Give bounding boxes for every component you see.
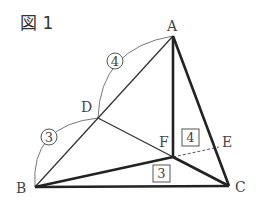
ratio-DB: 3 [45, 130, 53, 145]
segment-BF [35, 157, 173, 187]
point-label-D: D [81, 99, 92, 115]
area-3: 3 [157, 166, 165, 181]
point-label-F: F [159, 134, 169, 150]
segment-BC [35, 186, 229, 187]
segment-AB [35, 36, 173, 187]
area-4: 4 [186, 130, 194, 145]
point-label-A: A [166, 18, 178, 34]
point-label-E: E [222, 134, 232, 150]
point-label-C: C [235, 179, 246, 195]
point-label-B: B [16, 180, 26, 196]
ratio-AD: 4 [111, 54, 119, 69]
geometry-figure: 4 3 4 3 A B C D E F [0, 0, 256, 213]
segment-AC [173, 36, 229, 186]
segment-FE-dashed [173, 147, 219, 157]
